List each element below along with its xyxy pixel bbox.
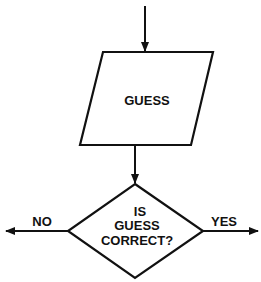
guess-label: GUESS: [124, 93, 170, 108]
no-label: NO: [32, 214, 52, 229]
decision-line-1: IS: [134, 204, 147, 219]
decision-line-3: CORRECT?: [101, 233, 173, 248]
flowchart: GUESS IS GUESS CORRECT? NO YES: [0, 0, 261, 282]
yes-label: YES: [211, 214, 237, 229]
decision-node: IS GUESS CORRECT?: [68, 184, 203, 278]
decision-line-2: GUESS: [114, 218, 160, 233]
guess-node: GUESS: [80, 52, 213, 145]
